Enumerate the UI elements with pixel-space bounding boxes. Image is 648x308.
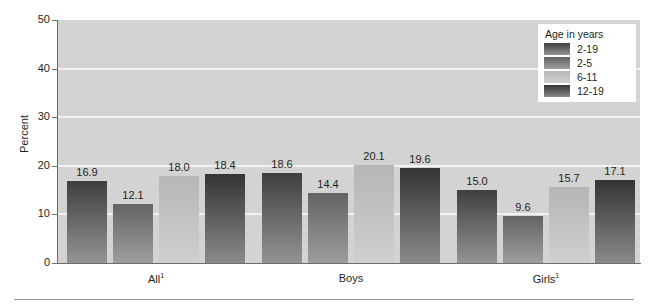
bar-value-label: 18.4 <box>200 160 250 171</box>
bar-value-label: 18.0 <box>154 162 204 173</box>
legend-label: 12-19 <box>577 85 604 97</box>
category-label-text: Boys <box>339 272 363 284</box>
footnote-marker: 1 <box>555 272 559 279</box>
bar-girls-12-19 <box>595 180 635 263</box>
bar-boys-12-19 <box>400 168 440 263</box>
legend-swatch-icon <box>544 71 570 83</box>
legend-swatch-icon <box>544 57 570 69</box>
bar-chart-figure: Percent 01020304050 16.918.615.012.114.4… <box>0 0 648 308</box>
category-label-text: Girls <box>533 273 556 285</box>
bar-value-label: 12.1 <box>108 190 158 201</box>
bar-value-label: 20.1 <box>349 151 399 162</box>
legend-label: 2-19 <box>577 43 598 55</box>
y-tick-label-50: 50 <box>22 14 50 25</box>
y-tick-label-0: 0 <box>22 257 50 268</box>
y-tick-mark-30 <box>52 117 57 118</box>
footer-divider <box>14 299 634 300</box>
bar-girls-2-5 <box>503 216 543 263</box>
legend: Age in years 2-192-56-1112-19 <box>538 24 636 102</box>
y-tick-label-10: 10 <box>22 208 50 219</box>
legend-label: 6-11 <box>577 71 597 83</box>
legend-item-12-19[interactable]: 12-19 <box>544 85 630 97</box>
bar-value-label: 15.7 <box>544 173 594 184</box>
y-tick-mark-20 <box>52 166 57 167</box>
bar-boys-2-19 <box>262 173 302 263</box>
y-tick-label-20: 20 <box>22 160 50 171</box>
legend-label: 2-5 <box>577 57 592 69</box>
y-axis-ticks: 01020304050 <box>22 0 50 308</box>
bar-boys-6-11 <box>354 165 394 263</box>
gridline-30 <box>57 116 640 118</box>
category-label-girls: Girls1 <box>506 272 586 285</box>
category-label-text: All <box>148 273 160 285</box>
bar-all-6-11 <box>159 176 199 263</box>
bar-value-label: 18.6 <box>257 159 307 170</box>
y-tick-label-30: 30 <box>22 111 50 122</box>
y-tick-mark-40 <box>52 69 57 70</box>
y-tick-mark-50 <box>52 20 57 21</box>
bar-value-label: 9.6 <box>498 202 548 213</box>
legend-swatch-icon <box>544 85 570 97</box>
legend-swatch-icon <box>544 43 570 55</box>
bar-all-12-19 <box>205 174 245 263</box>
footnote-marker: 1 <box>160 272 164 279</box>
legend-title: Age in years <box>545 28 630 40</box>
bar-boys-2-5 <box>308 193 348 263</box>
category-label-all: All1 <box>116 272 196 285</box>
bar-value-label: 14.4 <box>303 179 353 190</box>
legend-item-6-11[interactable]: 6-11 <box>544 71 630 83</box>
bar-value-label: 15.0 <box>452 176 502 187</box>
bar-value-label: 17.1 <box>590 166 640 177</box>
y-axis-line <box>57 20 58 264</box>
legend-entries: 2-192-56-1112-19 <box>544 43 630 97</box>
bar-value-label: 16.9 <box>62 167 112 178</box>
y-tick-mark-10 <box>52 214 57 215</box>
bar-all-2-19 <box>67 181 107 263</box>
bar-girls-2-19 <box>457 190 497 263</box>
y-tick-mark-0 <box>52 263 57 264</box>
bar-all-2-5 <box>113 204 153 263</box>
gridline-20 <box>57 165 640 167</box>
y-tick-label-40: 40 <box>22 63 50 74</box>
bar-girls-6-11 <box>549 187 589 263</box>
legend-item-2-5[interactable]: 2-5 <box>544 57 630 69</box>
legend-item-2-19[interactable]: 2-19 <box>544 43 630 55</box>
bar-value-label: 19.6 <box>395 154 445 165</box>
category-label-boys: Boys <box>311 272 391 284</box>
x-axis-line <box>57 263 641 264</box>
